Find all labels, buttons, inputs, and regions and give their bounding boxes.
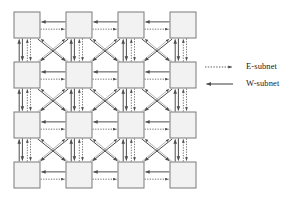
network-node [66, 12, 92, 38]
network-node [118, 162, 144, 188]
diagonal-links-layer [38, 39, 172, 161]
e-subnet-line-icon [204, 60, 240, 74]
nodes-layer [14, 12, 196, 188]
network-node [170, 62, 196, 88]
network-node [170, 112, 196, 138]
network-node [170, 12, 196, 38]
network-node [170, 162, 196, 188]
network-node [66, 162, 92, 188]
legend: E-subnet W-subnet [204, 58, 297, 92]
network-node [66, 62, 92, 88]
legend-label-w-subnet: W-subnet [246, 79, 279, 88]
network-node [14, 12, 40, 38]
diagram-root: E-subnet W-subnet [0, 0, 297, 216]
network-node [118, 12, 144, 38]
network-node [118, 112, 144, 138]
network-node [66, 112, 92, 138]
w-subnet-line-icon [204, 77, 240, 91]
legend-label-e-subnet: E-subnet [246, 62, 277, 71]
network-node [14, 62, 40, 88]
network-node [118, 62, 144, 88]
network-node [14, 112, 40, 138]
legend-item-e-subnet: E-subnet [204, 58, 297, 75]
legend-item-w-subnet: W-subnet [204, 75, 297, 92]
network-topology-figure [0, 0, 297, 216]
network-node [14, 162, 40, 188]
